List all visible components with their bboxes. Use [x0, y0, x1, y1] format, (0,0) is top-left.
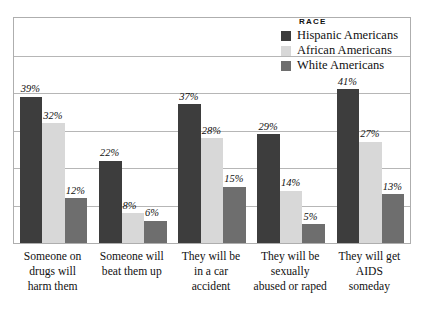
bar-value-label: 32%	[43, 111, 62, 122]
bar-value-label: 15%	[224, 174, 243, 185]
legend-item-label: African Americans	[297, 44, 392, 57]
legend-item-1[interactable]: Hispanic Americans	[281, 28, 410, 43]
bar-group: 37%28%15%	[178, 18, 246, 243]
legend-rows: Hispanic AmericansAfrican AmericansWhite…	[281, 28, 410, 73]
legend-title: RACE	[299, 17, 410, 26]
category-label-line: in a car	[168, 264, 253, 279]
category-label: They will bein a caraccident	[168, 249, 253, 294]
bar-value-label: 28%	[202, 126, 221, 137]
category-label-line: sexually	[248, 264, 333, 279]
category-label-line: Someone on	[10, 249, 95, 264]
bar-value-label: 39%	[21, 84, 40, 95]
category-label-line: someday	[327, 279, 412, 294]
category-label-line: drugs will	[10, 264, 95, 279]
category-label-line: accident	[168, 279, 253, 294]
category-label: They will getAIDSsomeday	[327, 249, 412, 294]
bar	[337, 89, 360, 243]
bar	[65, 198, 88, 243]
legend-item-label: White Americans	[297, 59, 384, 72]
bar-value-label: 8%	[123, 201, 137, 212]
bar-value-label: 41%	[338, 77, 357, 88]
category-label: Someone willbeat them up	[89, 249, 174, 279]
bar-value-label: 6%	[145, 208, 159, 219]
bar	[20, 97, 43, 243]
bar	[42, 123, 65, 243]
bar	[201, 138, 224, 243]
category-label-line: They will be	[168, 249, 253, 264]
category-label-line: Someone will	[89, 249, 174, 264]
bar	[99, 161, 122, 244]
bar-group: 22%8%6%	[99, 18, 167, 243]
category-label-line: They will be	[248, 249, 333, 264]
legend-swatch-icon	[281, 61, 291, 71]
bar-value-label: 22%	[100, 148, 119, 159]
bar-value-label: 14%	[281, 178, 300, 189]
bar	[302, 224, 325, 243]
category-label: They will besexuallyabused or raped	[248, 249, 333, 294]
bar-chart: 39%32%12%22%8%6%37%28%15%29%14%5%41%27%1…	[0, 0, 426, 312]
bar-group: 39%32%12%	[20, 18, 88, 243]
category-label-line: abused or raped	[248, 279, 333, 294]
bar-value-label: 37%	[179, 92, 198, 103]
legend-item-3[interactable]: White Americans	[281, 58, 410, 73]
category-label-line: They will get	[327, 249, 412, 264]
bar-value-label: 5%	[303, 212, 317, 223]
legend-swatch-icon	[281, 46, 291, 56]
bar-value-label: 12%	[66, 186, 85, 197]
bar	[122, 213, 145, 243]
bar	[178, 104, 201, 243]
category-label-line: beat them up	[89, 264, 174, 279]
legend-item-label: Hispanic Americans	[297, 29, 398, 42]
bar	[280, 191, 303, 244]
category-label: Someone ondrugs willharm them	[10, 249, 95, 294]
bar-value-label: 27%	[360, 129, 379, 140]
x-axis-category-labels: Someone ondrugs willharm themSomeone wil…	[13, 249, 411, 307]
bar	[359, 142, 382, 243]
legend-swatch-icon	[281, 31, 291, 41]
chart-legend: RACE Hispanic AmericansAfrican Americans…	[281, 17, 410, 73]
bar-value-label: 29%	[258, 122, 277, 133]
bar	[382, 194, 405, 243]
bar-value-label: 13%	[383, 182, 402, 193]
legend-item-2[interactable]: African Americans	[281, 43, 410, 58]
bar	[223, 187, 246, 243]
bar	[144, 221, 167, 244]
bar	[257, 134, 280, 243]
category-label-line: harm them	[10, 279, 95, 294]
category-label-line: AIDS	[327, 264, 412, 279]
